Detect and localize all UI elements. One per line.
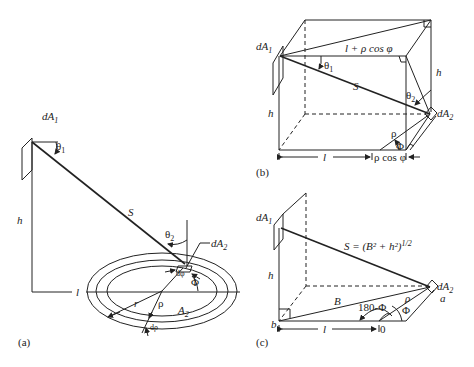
- theta1-label-b: θ1: [324, 59, 333, 74]
- dphi-arrow-l: [165, 270, 175, 272]
- caption-c: (c): [256, 336, 269, 349]
- l-label-c: l: [323, 323, 326, 335]
- l-label-a: l: [76, 286, 79, 298]
- B-label: B: [334, 295, 341, 307]
- A2-label: A2: [177, 304, 189, 319]
- caption-a: (a): [18, 336, 31, 349]
- theta2-arc-b: [415, 90, 431, 105]
- phi-label-c: Φ: [402, 304, 410, 316]
- rho-label-b: ρ: [391, 127, 397, 139]
- panel-c: dA1 S = (B² + h²)1/2 h B 180-Φ ρ Φ dA2 a…: [256, 193, 453, 349]
- dphi-label: dφ: [176, 269, 185, 278]
- l-label-b: l: [323, 151, 326, 163]
- dA1-label-b: dA1: [256, 40, 272, 55]
- dA2-label-a: dA2: [211, 237, 227, 252]
- phi-arc-c: [392, 306, 402, 321]
- h-left-label-b: h: [268, 107, 274, 119]
- S-line-c: [281, 228, 430, 287]
- drho-label: dρ: [150, 323, 158, 332]
- dA2-label-b: dA2: [437, 107, 453, 122]
- view-factor-figure: dA1 θ1 h S θ2 dA2 l dφ Φ r ρ A2 dρ (a): [0, 0, 474, 367]
- origin-label: 0: [380, 323, 386, 335]
- rho-label-c: ρ: [404, 292, 410, 304]
- dA1-label-a: dA1: [42, 110, 58, 125]
- dA1-label-c: dA1: [256, 211, 272, 226]
- rhocos-label-b: ρ cos φ: [374, 151, 406, 163]
- rho-side-b2: [410, 116, 436, 150]
- panel-a: dA1 θ1 h S θ2 dA2 l dφ Φ r ρ A2 dρ (a): [17, 110, 240, 349]
- theta2-label-a: θ2: [165, 228, 174, 243]
- dA1-plate: [22, 138, 32, 180]
- S-label-a: S: [128, 206, 134, 218]
- h-label-c: h: [268, 269, 274, 281]
- drho-arrow: [146, 328, 148, 336]
- a-label: a: [440, 292, 446, 304]
- rho-line-b: [380, 114, 430, 150]
- theta1-label-a: θ1: [56, 140, 65, 155]
- plane-edge: [283, 193, 306, 214]
- caption-b: (b): [256, 166, 269, 179]
- S-label-b: S: [353, 80, 359, 92]
- panel-b: dA1 l + ρ cos φ θ1 S h h θ2 dA2 ρ Φ l ρ …: [256, 20, 453, 179]
- b-label: b: [271, 318, 277, 330]
- right-angle-mid: [399, 56, 406, 62]
- theta2-label-b: θ2: [406, 89, 415, 104]
- theta1-arc-b: [319, 56, 321, 69]
- top-edge-label: l + ρ cos φ: [345, 42, 393, 54]
- S-equation-label: S = (B² + h²)1/2: [344, 239, 412, 253]
- angle-180-phi-label: 180-Φ: [358, 301, 386, 313]
- h-right-label-b: h: [436, 66, 442, 78]
- right-angle-b: [279, 309, 290, 318]
- hidden-diagonal: [279, 114, 305, 150]
- r-label: r: [134, 297, 139, 309]
- h-label-a: h: [17, 214, 23, 226]
- S-line: [32, 142, 185, 264]
- phi-label-a: Φ: [191, 276, 199, 288]
- rho-label-a: ρ: [158, 297, 164, 309]
